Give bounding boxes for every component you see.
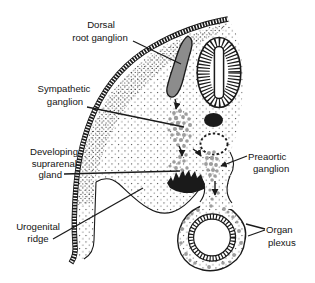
label-preaortic-ganglion-1: Preaortic xyxy=(248,151,287,162)
label-suprarenal-gland-3: gland xyxy=(39,169,62,180)
label-preaortic-ganglion-2: ganglion xyxy=(253,163,289,174)
label-dorsal-root-ganglion-1: Dorsal xyxy=(87,19,115,30)
label-sympathetic-ganglion-1: Sympathetic xyxy=(38,83,91,94)
organ-lumen xyxy=(194,219,231,256)
label-suprarenal-gland-1: Developing xyxy=(30,146,78,157)
label-organ-plexus-2: plexus xyxy=(268,237,296,248)
label-urogenital-ridge-2: ridge xyxy=(27,233,48,244)
label-sympathetic-ganglion-2: ganglion xyxy=(47,96,83,107)
gut-tube-organ xyxy=(178,204,246,271)
neural-canal xyxy=(214,47,223,99)
label-suprarenal-gland-2: suprarenal xyxy=(32,158,77,169)
embryo-cross-section-diagram: Dorsal root ganglion Sympathetic ganglio… xyxy=(0,0,315,283)
neural-tube xyxy=(197,38,241,108)
mesentery-stalk xyxy=(200,175,233,209)
label-dorsal-root-ganglion-2: root ganglion xyxy=(72,32,127,43)
notochord xyxy=(204,113,223,127)
label-urogenital-ridge-1: Urogenital xyxy=(16,221,60,232)
label-organ-plexus-1: Organ xyxy=(266,224,293,235)
